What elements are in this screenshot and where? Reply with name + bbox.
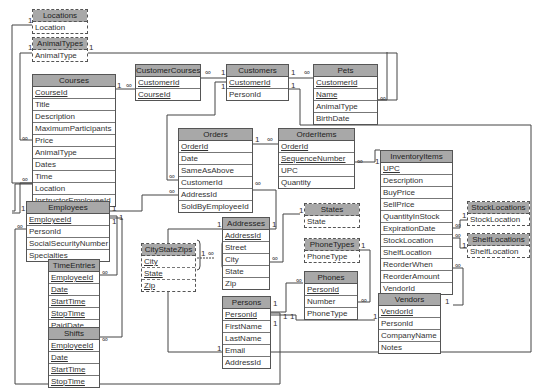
- table-field[interactable]: PersonId: [227, 89, 288, 100]
- table-header: Employees: [27, 202, 109, 214]
- table-customercourses[interactable]: CustomerCourses CustomerId CourseId: [135, 64, 201, 101]
- table-field[interactable]: QuantityInStock: [381, 211, 452, 223]
- table-orders[interactable]: Orders OrderId Date SameAsAbove Customer…: [178, 128, 253, 213]
- cardinality-one: 1: [462, 242, 466, 250]
- table-field[interactable]: Street: [223, 242, 269, 254]
- table-field[interactable]: City: [223, 254, 269, 266]
- table-field[interactable]: State: [142, 268, 195, 280]
- table-field[interactable]: EmployeeId: [27, 214, 109, 226]
- table-courses[interactable]: Courses CourseId Title Description Maxim…: [32, 74, 116, 207]
- table-field[interactable]: StopTime: [49, 376, 99, 387]
- table-field[interactable]: AddressId: [223, 230, 269, 242]
- table-field[interactable]: CompanyName: [379, 330, 440, 342]
- table-timeentries[interactable]: TimeEntries EmployeeId Date StartTime St…: [48, 259, 100, 332]
- table-field[interactable]: StockLocation: [468, 214, 529, 225]
- table-field[interactable]: PersonId: [305, 284, 357, 296]
- table-field[interactable]: PhoneType: [305, 308, 357, 319]
- table-field[interactable]: UPC: [381, 163, 452, 175]
- table-citystatezips[interactable]: CityStateZips City State Zip: [141, 243, 196, 292]
- table-field[interactable]: CustomerId: [314, 77, 377, 89]
- cardinality-many: ∞: [304, 69, 310, 77]
- table-field[interactable]: Quantity: [279, 177, 354, 188]
- table-employees[interactable]: Employees EmployeeId PersonId SocialSecu…: [26, 201, 110, 262]
- table-field[interactable]: SequenceNumber: [279, 153, 354, 165]
- table-field[interactable]: State: [305, 216, 359, 227]
- table-field[interactable]: City: [142, 256, 195, 268]
- table-field[interactable]: AnimalType: [33, 147, 115, 159]
- table-field[interactable]: PersonId: [223, 309, 270, 321]
- table-field[interactable]: Description: [381, 175, 452, 187]
- table-field[interactable]: StartTime: [49, 364, 99, 376]
- table-field[interactable]: PersonId: [27, 226, 109, 238]
- table-orderitems[interactable]: OrderItems OrderId SequenceNumber UPC Qu…: [278, 128, 355, 189]
- table-animaltypes[interactable]: AnimalTypes AnimalType: [32, 37, 88, 62]
- table-field[interactable]: Name: [314, 89, 377, 101]
- table-field[interactable]: CourseId: [33, 87, 115, 99]
- table-field[interactable]: StartTime: [49, 296, 99, 308]
- table-field[interactable]: SoldByEmployeeId: [179, 201, 252, 212]
- table-field[interactable]: SocialSecurityNumber: [27, 238, 109, 250]
- table-field[interactable]: Location: [33, 22, 87, 33]
- table-field[interactable]: FirstName: [223, 321, 270, 333]
- table-field[interactable]: ExpirationDate: [381, 223, 452, 235]
- table-field[interactable]: Description: [33, 111, 115, 123]
- table-field[interactable]: Date: [49, 284, 99, 296]
- table-field[interactable]: CustomerId: [136, 77, 200, 89]
- table-field[interactable]: Notes: [379, 342, 440, 353]
- table-field[interactable]: BuyPrice: [381, 187, 452, 199]
- table-field[interactable]: PhoneType: [305, 251, 359, 262]
- table-field[interactable]: SellPrice: [381, 199, 452, 211]
- table-field[interactable]: UPC: [279, 165, 354, 177]
- table-field[interactable]: CustomerId: [179, 177, 252, 189]
- table-pets[interactable]: Pets CustomerId Name AnimalType BirthDat…: [313, 64, 378, 125]
- table-field[interactable]: SameAsAbove: [179, 165, 252, 177]
- table-field[interactable]: Dates: [33, 159, 115, 171]
- table-field[interactable]: AddressId: [179, 189, 252, 201]
- table-field[interactable]: ReorderAmount: [381, 271, 452, 283]
- table-field[interactable]: Zip: [223, 278, 269, 289]
- table-field[interactable]: VendorId: [379, 306, 440, 318]
- table-phones[interactable]: Phones PersonId Number PhoneType: [304, 271, 358, 320]
- table-field[interactable]: OrderId: [279, 141, 354, 153]
- table-field[interactable]: Zip: [142, 280, 195, 291]
- table-field[interactable]: ShelfLocation: [381, 247, 452, 259]
- table-field[interactable]: CustomerId: [227, 77, 288, 89]
- table-inventoryitems[interactable]: InventoryItems UPC Description BuyPrice …: [380, 150, 453, 295]
- table-persons[interactable]: Persons PersonId FirstName LastName Emai…: [222, 296, 271, 369]
- table-field[interactable]: AnimalType: [33, 50, 87, 61]
- table-field[interactable]: PersonId: [379, 318, 440, 330]
- table-field[interactable]: Number: [305, 296, 357, 308]
- table-phonetypes[interactable]: PhoneTypes PhoneType: [304, 238, 360, 263]
- table-field[interactable]: Time: [33, 171, 115, 183]
- table-field[interactable]: LastName: [223, 333, 270, 345]
- table-field[interactable]: StopTime: [49, 308, 99, 320]
- table-stocklocations[interactable]: StockLocations StockLocation: [467, 201, 530, 226]
- table-locations[interactable]: Locations Location: [32, 9, 88, 34]
- table-customers[interactable]: Customers CustomerId PersonId: [226, 64, 289, 101]
- table-field[interactable]: State: [223, 266, 269, 278]
- table-field[interactable]: BirthDate: [314, 113, 377, 124]
- table-field[interactable]: Price: [33, 135, 115, 147]
- table-field[interactable]: EmployeeId: [49, 272, 99, 284]
- table-field[interactable]: AddressId: [223, 357, 270, 368]
- table-field[interactable]: Title: [33, 99, 115, 111]
- table-field[interactable]: Date: [49, 352, 99, 364]
- table-shelflocations[interactable]: ShelfLocations ShelfLocation: [467, 233, 530, 258]
- table-field[interactable]: Date: [179, 153, 252, 165]
- cardinality-one: 1: [299, 207, 303, 215]
- table-header: CustomerCourses: [136, 65, 200, 77]
- table-vendors[interactable]: Vendors VendorId PersonId CompanyName No…: [378, 293, 441, 354]
- table-field[interactable]: Email: [223, 345, 270, 357]
- table-field[interactable]: ShelfLocation: [468, 246, 529, 257]
- table-shifts[interactable]: Shifts EmployeeId Date StartTime StopTim…: [48, 327, 100, 388]
- table-field[interactable]: CourseId: [136, 89, 200, 100]
- table-addresses[interactable]: Addresses AddressId Street City State Zi…: [222, 217, 270, 290]
- table-field[interactable]: OrderId: [179, 141, 252, 153]
- table-field[interactable]: MaximumParticipants: [33, 123, 115, 135]
- table-field[interactable]: StockLocation: [381, 235, 452, 247]
- table-field[interactable]: EmployeeId: [49, 340, 99, 352]
- table-field[interactable]: AnimalType: [314, 101, 377, 113]
- table-states[interactable]: States State: [304, 203, 360, 228]
- table-field[interactable]: ReorderWhen: [381, 259, 452, 271]
- table-field[interactable]: Location: [33, 183, 115, 195]
